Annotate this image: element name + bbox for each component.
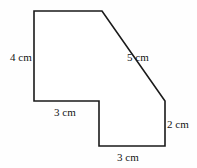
label-hypotenuse: 5 cm <box>127 51 149 63</box>
label-right-side: 2 cm <box>167 118 189 130</box>
geometry-figure: 4 cm 5 cm 3 cm 2 cm 3 cm <box>0 0 197 168</box>
label-left-side: 4 cm <box>10 51 32 63</box>
polygon-drawing <box>0 0 197 168</box>
label-bottom-horizontal: 3 cm <box>117 151 139 163</box>
composite-polygon-shape <box>34 11 165 146</box>
label-middle-horizontal: 3 cm <box>54 106 76 118</box>
